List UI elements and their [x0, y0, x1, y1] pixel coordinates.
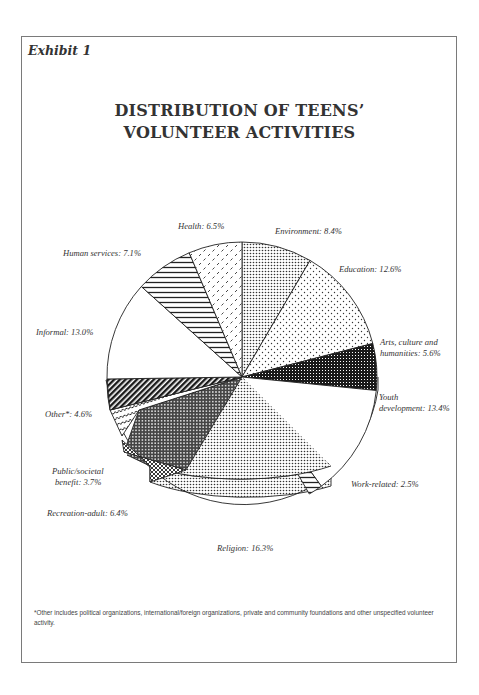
label-arts-line1: Arts, culture and: [380, 337, 438, 348]
label-youth-line2: development: 13.4%: [379, 403, 450, 414]
label-human-services: Human services: 7.1%: [63, 248, 141, 259]
label-health: Health: 6.5%: [178, 221, 224, 232]
footnote: *Other includes political organizations,…: [34, 608, 454, 628]
label-public-line1: Public/societal: [52, 466, 104, 477]
label-environment: Environment: 8.4%: [275, 226, 342, 237]
label-arts-line2: humanities: 5.6%: [380, 348, 441, 359]
label-religion: Religion: 16.3%: [217, 543, 273, 554]
label-other: Other*: 4.6%: [45, 409, 92, 420]
label-informal: Informal: 13.0%: [36, 327, 93, 338]
label-education: Education: 12.6%: [339, 264, 402, 275]
label-public-line2: benefit: 3.7%: [55, 477, 101, 488]
label-work-related: Work-related: 2.5%: [351, 479, 419, 490]
label-youth-line1: Youth: [379, 392, 398, 403]
label-recreation-adult: Recreation-adult: 6.4%: [47, 508, 128, 519]
